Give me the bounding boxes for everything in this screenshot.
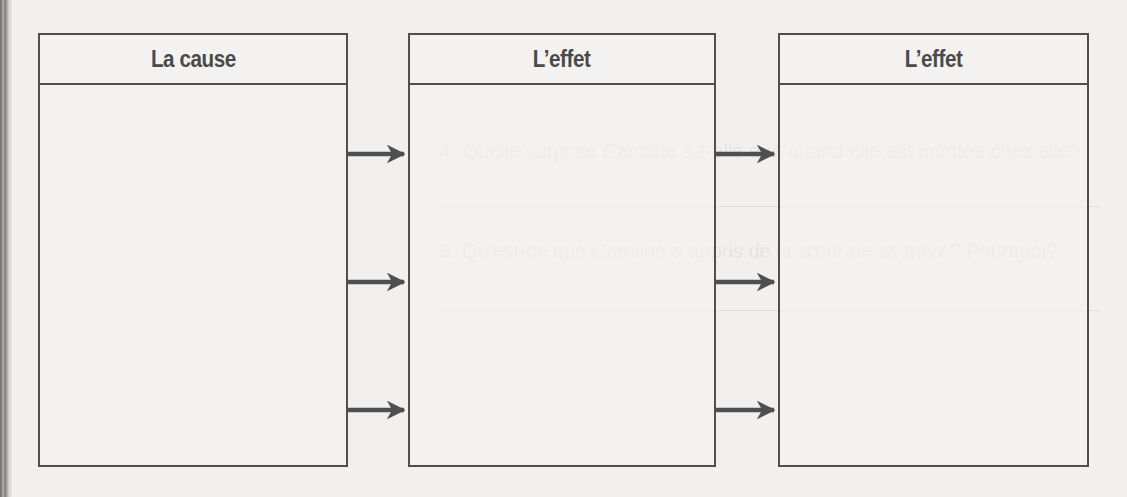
effect-box-1-title: L’effet bbox=[533, 45, 591, 73]
cause-box-answer-area[interactable] bbox=[40, 85, 346, 465]
cause-box: La cause bbox=[38, 33, 348, 467]
cause-box-header: La cause bbox=[40, 35, 346, 85]
effect-box-2-header: L’effet bbox=[780, 35, 1087, 85]
effect-box-2-answer-area[interactable] bbox=[780, 85, 1087, 465]
effect-box-1: L’effet bbox=[408, 33, 716, 467]
effect-box-1-header: L’effet bbox=[410, 35, 714, 85]
effect-box-2-title: L’effet bbox=[905, 45, 963, 73]
cause-box-title: La cause bbox=[151, 45, 236, 73]
effect-box-1-answer-area[interactable] bbox=[410, 85, 714, 465]
effect-box-2: L’effet bbox=[778, 33, 1089, 467]
page-binding-edge bbox=[0, 0, 12, 497]
